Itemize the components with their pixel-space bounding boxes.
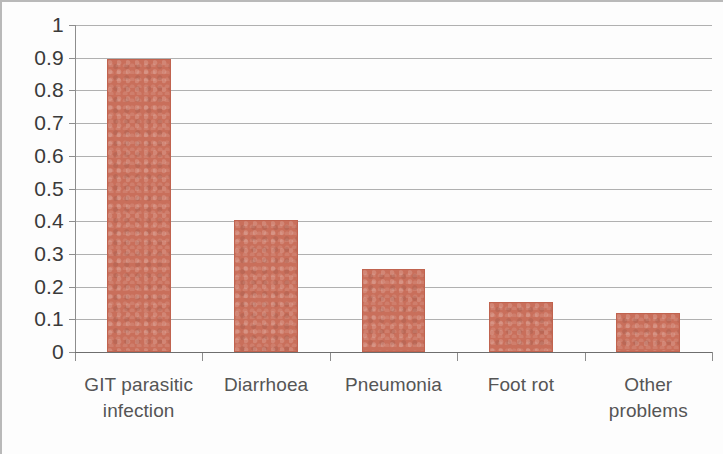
x-axis-tick [712,352,713,361]
category-label-line: GIT parasitic [75,372,202,398]
y-axis-tick-label: 0.5 [4,178,64,199]
gridline [75,123,712,124]
y-axis-tick-label: 0.2 [4,276,64,297]
bar [234,220,298,352]
gridline [75,156,712,157]
category-label-line: Other [585,372,712,398]
x-axis-tick [457,352,458,361]
plot-area [75,25,712,352]
x-axis-category-label: GIT parasiticinfection [75,372,202,423]
x-axis-tick [75,352,76,361]
bar-chart: 10.90.80.70.60.50.40.30.20.10 GIT parasi… [0,0,723,454]
x-axis-line [75,352,712,353]
y-axis-tick-label: 1 [4,14,64,35]
x-axis-tick [585,352,586,361]
y-axis-tick-label: 0.7 [4,112,64,133]
y-axis-tick-label: 0.3 [4,243,64,264]
y-axis-tick-label: 0.1 [4,308,64,329]
gridline [75,90,712,91]
category-label-line: problems [585,398,712,424]
category-label-line: Foot rot [457,372,584,398]
x-axis-category-label: Pneumonia [330,372,457,398]
y-axis-tick-label: 0.8 [4,79,64,100]
gridline [75,254,712,255]
bar [107,59,171,352]
x-axis-category-label: Diarrhoea [202,372,329,398]
category-label-line: Diarrhoea [202,372,329,398]
x-axis-tick [202,352,203,361]
category-label-line: Pneumonia [330,372,457,398]
bar [616,313,680,352]
bar [362,269,426,352]
bar [489,302,553,352]
y-axis-tick-label: 0.4 [4,210,64,231]
x-axis-category-label: Otherproblems [585,372,712,423]
y-axis-tick-label: 0.6 [4,145,64,166]
y-axis-line [75,25,76,352]
gridline [75,25,712,26]
x-axis-tick [330,352,331,361]
category-label-line: infection [75,398,202,424]
gridline [75,221,712,222]
y-axis-tick-label: 0 [4,341,64,362]
x-axis-category-label: Foot rot [457,372,584,398]
gridline [75,58,712,59]
gridline [75,189,712,190]
y-axis-tick-label: 0.9 [4,47,64,68]
